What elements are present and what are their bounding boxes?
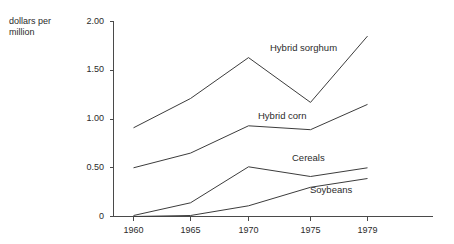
- plot-area: [0, 0, 454, 244]
- y-axis-ticks: [110, 22, 114, 217]
- x-axis-label-1975: 1975: [290, 225, 331, 236]
- y-axis-label-0.50: 0.50: [76, 162, 104, 173]
- series-annotation-soybeans: Soybeans: [310, 184, 352, 195]
- y-axis-label-2.00: 2.00: [76, 16, 104, 27]
- y-axis-label-0: 0: [76, 211, 104, 222]
- x-axis-label-1979: 1979: [347, 225, 388, 236]
- series-annotation-hybrid-corn: Hybrid corn: [258, 110, 307, 121]
- y-axis-label-1.00: 1.00: [76, 113, 104, 124]
- x-axis-label-1960: 1960: [113, 225, 154, 236]
- series-annotation-cereals: Cereals: [292, 152, 325, 163]
- x-axis-label-1965: 1965: [170, 225, 211, 236]
- x-axis-ticks: [134, 217, 368, 222]
- line-chart: dollars per million 2.00 1.50: [0, 0, 454, 244]
- x-axis-label-1970: 1970: [228, 225, 269, 236]
- y-axis-label-1.50: 1.50: [76, 64, 104, 75]
- series-annotation-hybrid-sorghum: Hybrid sorghum: [270, 42, 337, 53]
- series-line-hybrid-corn: [134, 104, 368, 167]
